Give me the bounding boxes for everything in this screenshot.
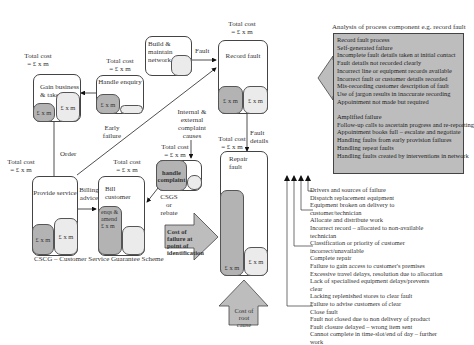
footnote: CSCG – Customer Service Guarantee Scheme: [34, 255, 164, 263]
provide-service-cell-cost-1: £ x m: [32, 224, 54, 255]
provide-service-cost: Total cost = £ x m: [0, 158, 42, 174]
root-cause-item: Failure to gain access to customer's pre…: [310, 262, 470, 270]
bill-customer-cell-empty: [122, 226, 145, 255]
bill-customer-title: Bill customer: [105, 185, 135, 201]
analysis-item: Handling faults from early provision fai…: [337, 136, 460, 144]
root-causes-list: Drivers and sources of failure Dispatch …: [310, 186, 470, 345]
analysis-item: Incorrect fault or customer details reco…: [337, 75, 460, 83]
build-network-cell: [171, 55, 192, 76]
analysis-item: Appointment books full – escalate and ne…: [337, 128, 460, 136]
repair-fault-cell-cost-1: £ x m: [220, 190, 244, 276]
root-cause-item: Dispatch replacement equipment: [310, 194, 470, 202]
root-cause-item: Cannot complete in time-slot/end of day …: [310, 330, 470, 338]
analysis-item: Handling faults created by interventions…: [337, 152, 460, 160]
handle-complaint-cell: handle complaint: [156, 160, 187, 191]
root-cause-item: Lacking replenished stores to clear faul…: [310, 292, 470, 300]
root-cause-item: Classification or priority of customer: [310, 239, 470, 247]
callout-cost-of-root-cause: Cost of root cause: [231, 307, 257, 328]
root-cause-item: Complete repair: [310, 254, 470, 262]
handle-enquiry-cost: Total cost = £ x m: [97, 57, 143, 73]
handle-complaint-cell-empty: [187, 175, 202, 190]
analysis-item: Self-generated failure: [337, 44, 460, 52]
handle-complaint-cost: Total cost = £ x m: [155, 143, 195, 159]
gain-business-cell-cost-2: £ x m: [56, 92, 80, 122]
analysis-item: Follow-up calls to ascertain progress an…: [337, 121, 460, 129]
root-cause-item: Fault closure delayed – wrong item sent: [310, 323, 470, 331]
root-cause-item: Close fault: [310, 308, 470, 316]
analysis-item: Appointment not made but required: [337, 98, 460, 106]
repair-fault-cell-cost-2: £ x m: [244, 247, 268, 276]
analysis-item: Record fault process: [337, 36, 460, 44]
bill-customer-cost: Total cost = £ x m: [107, 158, 147, 174]
label-fault-details: Fault details: [250, 129, 270, 145]
root-cause-item: technician: [310, 232, 470, 240]
root-cause-item: clear: [310, 285, 470, 293]
label-early-failure: Early failure: [100, 124, 124, 140]
label-order: Order: [60, 150, 76, 158]
root-cause-item: Drivers and sources of failure: [310, 186, 470, 194]
provide-service-cell-cost-2: £ x m: [54, 218, 78, 255]
root-cause-item: Excessive travel delays, resolution due …: [310, 270, 470, 278]
root-cause-item: Incorrect record – allocated to non-avai…: [310, 224, 470, 232]
handle-enquiry-title: Handle enquiry: [97, 78, 143, 86]
analysis-item: Incomplete fault details taken at initia…: [337, 51, 460, 59]
repair-fault-title: Repair fault: [229, 155, 259, 171]
record-fault-title: Record fault: [219, 52, 267, 60]
handle-enquiry-cell-empty: [120, 105, 143, 114]
analysis-item: Incorrect line or equipment records avai…: [337, 67, 460, 75]
analysis-box: Record fault process Self-generated fail…: [333, 33, 464, 174]
analysis-item: Fault details not recorded clearly: [337, 59, 460, 67]
record-fault-cell-cost-2: £ x m: [243, 86, 268, 114]
root-cause-item: work: [310, 338, 470, 345]
repair-fault-cost: Total cost = £ x m: [212, 135, 252, 151]
callout-cost-of-failure: Cost of failure at point of identificati…: [167, 228, 197, 256]
analysis-item: Mis-recording customer description of fa…: [337, 82, 460, 90]
analysis-item: Handling repeat faults: [337, 144, 460, 152]
analysis-item: Amplified failure: [337, 113, 460, 121]
root-cause-item: Lack of specialised equipment delays/pre…: [310, 277, 470, 285]
label-complaint-causes: Internal & external complaint causes: [171, 108, 213, 140]
handle-enquiry-cell-cost: £ x m: [96, 94, 120, 114]
root-cause-item: Failure to advise customers of clear: [310, 300, 470, 308]
label-billing-advice: Billing advice: [78, 186, 100, 202]
gain-business-cost: Total cost = £ x m: [18, 52, 58, 68]
root-cause-item: Fault not closed due to non delivery of …: [310, 315, 470, 323]
analysis-heading: Analysis of process component e.g. recor…: [332, 23, 466, 31]
label-fault: Fault: [195, 47, 209, 55]
analysis-item: Use of jargon results in inaccurate reco…: [337, 90, 460, 98]
gain-business-cell-cost-1: £ x m: [33, 103, 55, 122]
root-cause-item: Allocate and distribute work: [310, 216, 470, 224]
root-cause-item: Equipment broken on delivery to: [310, 201, 470, 209]
record-fault-cell-cost-1: £ x m: [218, 86, 243, 114]
root-cause-item: customer/technician: [310, 209, 470, 217]
root-cause-item: incorrect/unavailable: [310, 247, 470, 255]
label-csgs-rebate: CSGS or rebate: [157, 193, 181, 217]
bill-customer-cell-enqs-amend: enqs & amend £ x m: [98, 206, 122, 255]
provide-service-title: Provide service: [33, 189, 77, 197]
analysis-spacer: [337, 105, 460, 113]
record-fault-cost: Total cost = £ x m: [222, 20, 262, 36]
